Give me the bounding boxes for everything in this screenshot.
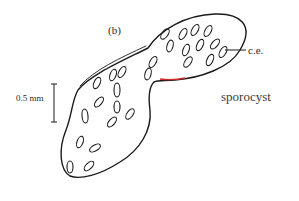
sporocyst-outline [61, 14, 246, 177]
scale-bar-label: 0.5 mm [16, 93, 44, 103]
panel-label: (b) [108, 24, 121, 36]
red-accent [160, 78, 185, 80]
annotation-label: c.e. [248, 44, 263, 56]
cercarial-embryos [67, 23, 229, 173]
scale-bar [51, 84, 57, 122]
organism-label: sporocyst [221, 89, 271, 105]
